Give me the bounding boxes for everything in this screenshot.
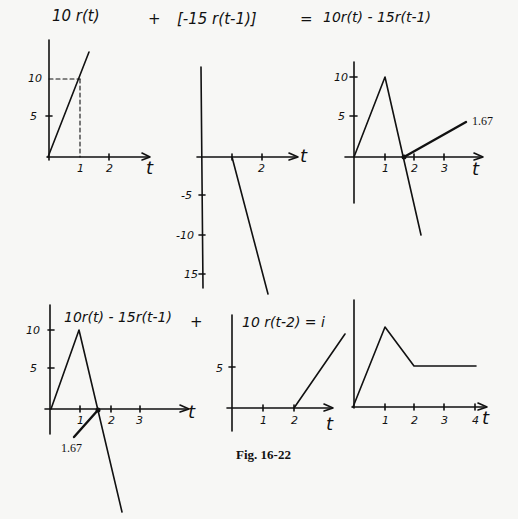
xtick-1: 1 [77, 162, 84, 175]
plot-sum-bottom: 10 5 1 2 3 t 1.67 [26, 305, 196, 512]
ytick-neg5: -5 [181, 189, 192, 202]
xtick-2: 2 [106, 162, 113, 175]
xtick-1: 1 [260, 414, 267, 427]
ytick-10: 10 [26, 324, 40, 337]
axis-label-t: t [300, 145, 308, 166]
xtick-2: 2 [258, 162, 265, 175]
plot-i: 1 2 3 4 t [352, 300, 490, 428]
xtick-3: 3 [441, 162, 448, 175]
ytick-10: 10 [28, 72, 42, 85]
ytick-5: 5 [338, 110, 345, 123]
xtick-2: 2 [411, 162, 418, 175]
xtick-1: 1 [77, 414, 84, 427]
xtick-4: 4 [472, 414, 479, 427]
figure-caption: Fig. 16-22 [236, 447, 291, 463]
ytick-5: 5 [30, 362, 37, 375]
xtick-2: 2 [108, 414, 115, 427]
xtick-1: 1 [382, 414, 389, 427]
xtick-1: 1 [382, 162, 389, 175]
xtick-3: 3 [441, 414, 448, 427]
axis-label-t: t [482, 407, 490, 428]
ytick-neg10: -10 [176, 229, 194, 242]
eq-top-term1: 10 r(t) [52, 7, 100, 25]
axis-label-t: t [188, 401, 196, 422]
eq-bottom-plus: + [190, 313, 203, 331]
axis-label-t: t [146, 157, 154, 178]
ytick-neg15: 15 [184, 268, 198, 281]
eq-top-plus: + [148, 10, 161, 28]
eq-top-result: 10r(t) - 15r(t-1) [323, 9, 431, 25]
figure-canvas: 10 r(t) + [-15 r(t-1)] = 10r(t) - 15r(t-… [0, 0, 518, 519]
plot-10r-t-2: 5 1 2 t [216, 315, 345, 434]
ytick-5: 5 [216, 362, 223, 375]
xtick-3: 3 [136, 414, 143, 427]
eq-bottom-term1: 10r(t) - 15r(t-1) [64, 309, 172, 325]
eq-bottom-term2: 10 r(t-2) = i [242, 314, 325, 330]
axis-label-t: t [472, 158, 480, 179]
ytick-10: 10 [334, 71, 348, 84]
ytick-5: 5 [30, 110, 37, 123]
xtick-2: 2 [411, 414, 418, 427]
plot-neg15r-t-1: 2 -5 -10 15 t [176, 67, 308, 294]
plot-sum-top: 10 5 1 2 3 t 1.67 [334, 62, 493, 235]
plot-10r-t: 10 5 1 2 t [28, 40, 154, 178]
eq-top-equals: = [300, 10, 313, 28]
slope-label: 1.67 [61, 441, 82, 455]
eq-top-term2: [-15 r(t-1)] [177, 10, 257, 28]
xtick-2: 2 [291, 414, 298, 427]
axis-label-t: t [326, 413, 334, 434]
slope-label: 1.67 [472, 114, 493, 128]
